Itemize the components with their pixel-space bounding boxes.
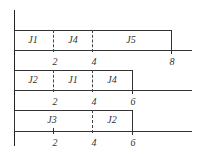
tick-label: 4 — [92, 137, 97, 148]
tick-mark — [53, 128, 54, 134]
job-label: J4 — [107, 74, 116, 85]
tick-mark — [171, 50, 172, 54]
tick-mark — [132, 131, 133, 135]
tick-label: 6 — [131, 137, 136, 148]
job-label: J2 — [107, 114, 116, 125]
divider-dashed — [92, 30, 93, 52]
divider-dashed — [92, 70, 93, 92]
job-label: J4 — [68, 34, 77, 45]
job-label: J1 — [28, 34, 37, 45]
job-label: J2 — [28, 74, 37, 85]
tick-mark — [132, 90, 133, 94]
tick-label: 6 — [131, 96, 136, 107]
job-label: J5 — [126, 34, 135, 45]
divider-dashed — [53, 70, 54, 92]
tick-label: 8 — [170, 56, 175, 67]
time-axis-row-1 — [14, 50, 192, 51]
tick-label: 2 — [53, 137, 58, 148]
tick-label: 4 — [92, 96, 97, 107]
tick-label: 2 — [53, 56, 58, 67]
divider-dashed — [92, 110, 93, 133]
time-axis-row-2 — [14, 90, 192, 91]
time-axis-row-3 — [14, 131, 192, 132]
job-label: J3 — [47, 114, 56, 125]
tick-label: 2 — [53, 96, 58, 107]
job-label: J1 — [68, 74, 77, 85]
tick-label: 4 — [92, 56, 97, 67]
divider-dashed — [53, 30, 54, 52]
